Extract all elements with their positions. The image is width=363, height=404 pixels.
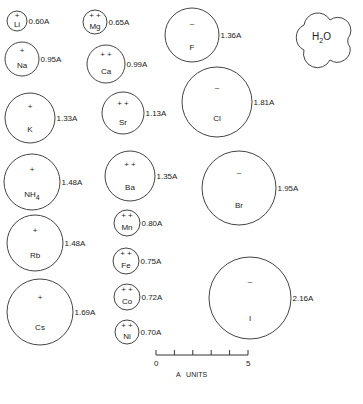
ion-charge: + +	[121, 211, 133, 220]
ion-f: –F1.36A	[165, 8, 242, 62]
water-label: H2O	[312, 31, 331, 44]
ion-symbol: I	[249, 314, 251, 323]
ion-symbol: Mn	[121, 223, 132, 232]
ion-symbol: K	[27, 125, 33, 134]
ion-cl: –Cl1.81A	[182, 67, 275, 137]
ion-symbol: Ba	[125, 183, 135, 192]
ion-ba: + +Ba1.35A	[105, 151, 178, 201]
ion-circle	[7, 215, 63, 271]
ion-radius-label: 1.13A	[146, 109, 168, 118]
ion-charge: +	[30, 165, 35, 174]
ion-mg: + +Mg0.65A	[83, 10, 130, 34]
ion-symbol: Mg	[89, 22, 100, 31]
ion-radius-label: 1.48A	[65, 239, 87, 248]
ion-symbol: Rb	[30, 251, 41, 260]
ion-circle	[182, 67, 252, 137]
ion-ca: + +Ca0.99A	[87, 45, 148, 83]
ion-na: +Na0.95A	[5, 42, 62, 76]
ion-k: +K1.33A	[5, 93, 78, 143]
ion-sr: + +Sr1.13A	[102, 92, 167, 134]
ion-symbol: Ni	[123, 332, 131, 341]
ion-symbol: NH4	[24, 190, 40, 201]
ion-radius-label: 1.95A	[278, 184, 300, 193]
ion-radius-label: 1.81A	[254, 98, 276, 107]
ions-group: +Li0.60A+ +Mg0.65A+Na0.95A+ +Ca0.99A+K1.…	[4, 8, 314, 345]
ion-radius-label: 1.48A	[62, 178, 84, 187]
ion-br: –Br1.95A	[202, 151, 299, 225]
ion-symbol: Cl	[213, 114, 221, 123]
ion-symbol: Li	[14, 20, 20, 29]
ion-charge: –	[237, 168, 242, 177]
ion-charge: + +	[121, 285, 133, 294]
ion-nh4: +NH41.48A	[4, 154, 83, 210]
ion-radius-label: 0.75A	[141, 257, 163, 266]
ion-i: –I2.16A	[209, 257, 314, 339]
ion-radius-label: 0.80A	[142, 219, 164, 228]
ion-radius-label: 0.72A	[142, 293, 164, 302]
ion-mn: + +Mn0.80A	[114, 210, 163, 236]
ion-circle	[202, 151, 276, 225]
scale-bar: 0 5 A UNITS	[154, 350, 251, 378]
scale-units-label: A UNITS	[176, 371, 207, 378]
ion-circle	[165, 8, 219, 62]
ion-ni: + +Ni0.70A	[115, 320, 162, 344]
ion-symbol: F	[190, 43, 195, 52]
ion-radius-label: 1.33A	[57, 114, 79, 123]
ion-radius-label: 1.69A	[75, 308, 97, 317]
ion-circle	[209, 257, 291, 339]
scale-bar-ticks	[156, 350, 248, 355]
ion-radius-label: 1.36A	[221, 31, 243, 40]
ion-charge: –	[248, 277, 253, 286]
scale-start-label: 0	[154, 359, 159, 368]
ion-symbol: Cs	[35, 323, 45, 332]
ion-radius-label: 2.16A	[293, 294, 315, 303]
ion-circle	[105, 151, 155, 201]
ion-rb: +Rb1.48A	[7, 215, 86, 271]
ion-charge: +	[15, 11, 20, 20]
ion-symbol: Fe	[121, 261, 131, 270]
ion-circle	[5, 93, 55, 143]
ion-charge: +	[33, 226, 38, 235]
ion-charge: + +	[120, 249, 132, 258]
ion-symbol: Sr	[119, 118, 127, 127]
ion-li: +Li0.60A	[7, 11, 50, 32]
ion-radius-label: 0.95A	[41, 55, 63, 64]
ion-radius-label: 0.99A	[127, 60, 149, 69]
ion-radius-label: 1.35A	[157, 172, 179, 181]
ion-radius-label: 0.65A	[109, 18, 131, 27]
ion-co: + +Co0.72A	[114, 284, 163, 310]
scale-end-label: 5	[246, 359, 251, 368]
ion-cs: +Cs1.69A	[7, 279, 96, 345]
ion-charge: + +	[117, 99, 129, 108]
ion-charge: –	[215, 83, 220, 92]
ion-fe: + +Fe0.75A	[113, 248, 162, 274]
ion-symbol: Ca	[101, 67, 112, 76]
ion-charge: +	[28, 102, 33, 111]
ion-charge: –	[190, 19, 195, 28]
ion-charge: + +	[100, 50, 112, 59]
ion-symbol: Na	[17, 61, 28, 70]
ion-charge: +	[20, 46, 25, 55]
ion-radius-label: 0.70A	[141, 328, 163, 337]
ionic-radii-diagram: +Li0.60A+ +Mg0.65A+Na0.95A+ +Ca0.99A+K1.…	[0, 0, 363, 404]
ion-symbol: Br	[235, 201, 243, 210]
ion-charge: +	[38, 293, 43, 302]
ion-radius-label: 0.60A	[29, 17, 51, 26]
ion-symbol: Co	[122, 297, 133, 306]
ion-circle	[7, 279, 73, 345]
ion-charge: + +	[89, 11, 101, 20]
ion-charge: + +	[124, 160, 136, 169]
ion-charge: + +	[121, 321, 133, 330]
water-molecule: H2O	[296, 13, 351, 68]
ion-circle	[4, 154, 60, 210]
